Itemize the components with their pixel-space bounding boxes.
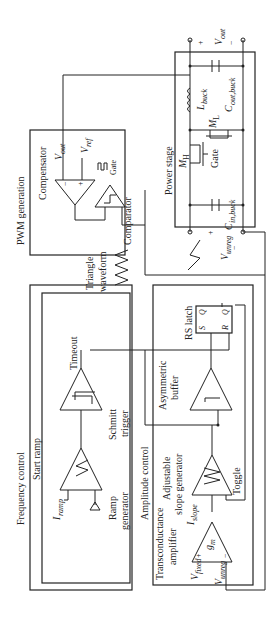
svg-text:generator: generator <box>119 492 130 530</box>
svg-text:−: − <box>227 40 236 45</box>
ramp-generator-icon <box>60 448 102 490</box>
frequency-control-title: Frequency control <box>15 452 26 525</box>
svg-text:−: − <box>221 553 230 558</box>
svg-text:Transconductance: Transconductance <box>154 507 165 580</box>
buck-converter-control-diagram: PWM generation Compensator − + V out V r… <box>0 0 277 619</box>
c-out-label: C out,buck <box>223 77 237 112</box>
svg-text:slope generator: slope generator <box>173 453 184 515</box>
svg-text:Gate: Gate <box>109 159 118 175</box>
svg-text:R: R <box>221 325 230 331</box>
amplitude-control-title: Amplitude control <box>139 446 150 520</box>
svg-text:slope: slope <box>190 504 199 521</box>
v-ref-label: V ref <box>79 137 93 153</box>
svg-text:out: out <box>58 143 67 154</box>
power-stage-title: Power stage <box>163 146 174 195</box>
start-ramp-label: Start ramp <box>31 438 42 480</box>
v-out-label: V out <box>53 143 67 160</box>
svg-text:in,buck: in,buck <box>228 199 237 223</box>
svg-text:+: + <box>194 553 203 558</box>
v-fixed-label: V fixed <box>189 557 203 580</box>
svg-text:m: m <box>208 539 217 545</box>
ml-label: M L <box>207 115 221 129</box>
svg-text:Asymmetric: Asymmetric <box>157 360 168 410</box>
svg-text:Q: Q <box>198 309 207 315</box>
i-slope-label: I slope <box>185 504 199 526</box>
svg-text:Adjustable: Adjustable <box>161 456 172 500</box>
schmitt-trigger-icon <box>60 368 102 410</box>
c-in-label: C in,buck <box>223 199 237 230</box>
triangle-waveform: Triangle waveform <box>84 250 128 292</box>
pwm-generation-block: PWM generation Compensator − + V out V r… <box>15 130 145 255</box>
svg-text:Toggle: Toggle <box>231 467 242 495</box>
v-unreg-label: V unreg <box>213 561 227 585</box>
ml-transistor-icon <box>210 130 228 138</box>
svg-text:out: out <box>218 28 227 39</box>
svg-text:waveform: waveform <box>97 251 108 292</box>
comparator-label: Comparator <box>122 197 133 245</box>
mh-transistor-icon <box>190 145 200 163</box>
hysteresis-icon <box>104 195 116 203</box>
svg-text:C: C <box>223 105 234 112</box>
svg-text:L: L <box>195 104 206 111</box>
asymmetric-buffer-icon <box>190 368 232 410</box>
slope-generator-icon <box>192 455 232 495</box>
svg-text:C: C <box>223 223 234 230</box>
l-buck-label: L buck <box>195 88 209 111</box>
i-ramp-label: I ramp <box>51 499 65 521</box>
gate-pulse-icon <box>98 163 107 170</box>
svg-text:L: L <box>212 115 221 120</box>
svg-text:S: S <box>198 326 207 330</box>
svg-text:RS latch: RS latch <box>183 306 194 340</box>
svg-text:+: + <box>76 181 85 186</box>
svg-text:unreg: unreg <box>224 236 233 254</box>
svg-text:Ramp: Ramp <box>107 496 118 520</box>
svg-text:+: + <box>206 230 215 235</box>
svg-text:ref: ref <box>84 137 93 147</box>
svg-text:fixed: fixed <box>194 557 203 574</box>
svg-text:Q: Q <box>221 309 230 315</box>
svg-text:buck: buck <box>200 88 209 104</box>
svg-text:−: − <box>61 181 70 186</box>
svg-text:ramp: ramp <box>56 499 65 516</box>
frequency-control-block: Frequency control Start ramp Timeout Sch… <box>15 285 132 590</box>
svg-text:Schmitt: Schmitt <box>107 409 118 440</box>
svg-text:amplifier: amplifier <box>167 528 178 565</box>
mh-label: M H <box>177 154 191 169</box>
svg-text:out,buck: out,buck <box>228 77 237 105</box>
compensator-label: Compensator <box>37 146 48 200</box>
gate-label: Gate <box>209 149 220 168</box>
v-unreg-source-label: V unreg <box>219 236 233 260</box>
zigzag-source-icon <box>188 240 200 270</box>
svg-text:trigger: trigger <box>119 410 130 437</box>
timeout-label: Timeout <box>68 336 79 370</box>
pwm-generation-title: PWM generation <box>15 176 26 245</box>
v-out-terminal-label: V out <box>213 28 227 45</box>
svg-text:buffer: buffer <box>169 375 180 400</box>
power-stage-block: Power stage + − V out C out,buck L buck <box>145 28 265 275</box>
svg-text:H: H <box>182 154 191 160</box>
vout-feedback-wire <box>63 75 190 132</box>
svg-text:+: + <box>196 40 205 45</box>
